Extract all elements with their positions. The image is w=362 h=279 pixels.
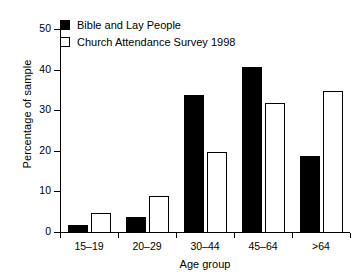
bar-chart: Percentage of sample 01020304050 Age gro… — [0, 0, 362, 279]
y-axis-tick-label: 40 — [39, 63, 51, 75]
y-axis-tick-label: 10 — [39, 184, 51, 196]
y-axis-tick: 10 — [54, 191, 60, 192]
chart-legend: Bible and Lay PeopleChurch Attendance Su… — [60, 16, 235, 50]
bar-series-a — [68, 225, 88, 233]
bar-series-b — [265, 103, 285, 233]
x-axis-tick — [118, 233, 119, 238]
x-axis-title: Age group — [60, 258, 350, 270]
x-axis-category-label: >64 — [286, 240, 356, 252]
y-axis-line — [60, 22, 61, 233]
legend-item: Church Attendance Survey 1998 — [60, 33, 235, 50]
plot-area: 01020304050 — [60, 22, 350, 233]
y-axis-tick-label: 20 — [39, 144, 51, 156]
y-axis-tick: 20 — [54, 151, 60, 152]
x-axis-tick — [176, 233, 177, 238]
bar-series-a — [242, 67, 262, 233]
legend-item-label: Church Attendance Survey 1998 — [77, 36, 235, 48]
legend-item: Bible and Lay People — [60, 16, 235, 33]
x-axis-tick — [234, 233, 235, 238]
bar-series-b — [207, 152, 227, 233]
bar-series-a — [126, 217, 146, 233]
y-axis-tick-label: 30 — [39, 103, 51, 115]
hollow-square-icon — [60, 37, 70, 47]
y-axis-tick-label: 50 — [39, 22, 51, 34]
bar-series-a — [184, 95, 204, 233]
y-axis-title: Percentage of sample — [21, 24, 33, 204]
x-axis-tick — [350, 233, 351, 238]
bar-series-b — [91, 213, 111, 233]
y-axis-tick-label: 0 — [45, 225, 51, 237]
y-axis-tick: 40 — [54, 70, 60, 71]
bar-series-b — [323, 91, 343, 233]
filled-square-icon — [60, 20, 70, 30]
x-axis-tick — [292, 233, 293, 238]
y-axis-tick: 30 — [54, 110, 60, 111]
legend-item-label: Bible and Lay People — [77, 19, 181, 31]
x-axis-tick — [60, 233, 61, 238]
bar-series-b — [149, 196, 169, 233]
bar-series-a — [300, 156, 320, 233]
